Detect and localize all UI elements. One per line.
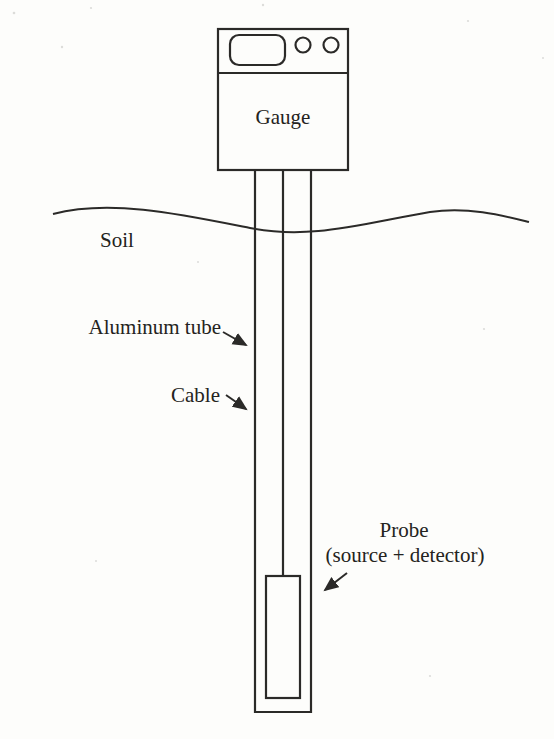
gauge-unit — [218, 29, 348, 170]
aluminum-tube-label: Aluminum tube — [89, 315, 221, 339]
diagram-canvas: Gauge Soil Aluminum tube Cable Probe (so… — [0, 0, 554, 739]
soil-moisture-neutron-gauge-diagram: Gauge Soil Aluminum tube Cable Probe (so… — [0, 0, 554, 739]
probe-label: Probe — [380, 518, 429, 542]
probe-sub-label: (source + detector) — [326, 543, 485, 567]
cable-label: Cable — [171, 383, 220, 407]
soil-label: Soil — [100, 228, 134, 252]
gauge-label: Gauge — [256, 105, 311, 129]
gauge-housing — [218, 29, 348, 170]
